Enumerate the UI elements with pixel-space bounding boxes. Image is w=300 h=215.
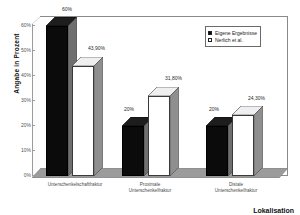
x-category-label-2: Proximale Unterschenkelfraktur [110,182,190,194]
y-tick-label: 40% [21,73,31,78]
bar-series1-cat3 [206,126,228,176]
bar-series1-cat1 [46,26,68,176]
y-tick-label: 30% [21,98,31,103]
bar-value-label-s2c3: 24,30% [248,95,265,101]
bar-side-face [94,57,103,176]
bar-series2-cat2 [148,96,170,176]
bar-front-face [46,26,68,176]
y-tick-label: 20% [21,123,31,128]
bar-front-face [122,126,144,176]
bar-front-face [232,115,254,176]
y-tick-mark [32,25,35,26]
chart-container: Angabe in Prozent 60% 50% 40% 30% 20% 10… [0,0,300,215]
bar-front-face [72,66,94,176]
legend-swatch-dark-icon [208,31,212,35]
y-tick-mark [32,50,35,51]
y-tick-20: 20% [0,123,31,128]
bar-side-face [170,87,179,176]
y-tick-mark [32,175,35,176]
bar-value-label-s2c1: 43,90% [88,45,105,51]
legend-item-eigene-ergebnisse: Eigene Ergebnisse [208,30,257,36]
y-tick-60: 60% [0,23,31,28]
x-category-label-3: Distale Unterschenkelfraktur [196,182,276,194]
y-tick-label: 50% [21,48,31,53]
y-tick-mark [32,75,35,76]
legend-swatch-light-icon [208,38,212,42]
bar-value-label-s1c1: 60% [62,6,72,12]
y-tick-0: 0% [0,173,31,178]
x-axis-title: Lokalisation [253,207,294,214]
y-tick-mark [32,100,35,101]
bar-series2-cat3 [232,115,254,176]
y-tick-mark [32,150,35,151]
legend-label: Eigene Ergebnisse [215,30,257,36]
legend-label: Nerlich et al. [215,37,243,43]
y-tick-label: 10% [21,148,31,153]
bar-series1-cat2 [122,126,144,176]
y-tick-mark [32,125,35,126]
bar-value-label-s2c2: 31,80% [165,75,182,81]
bar-side-face [254,106,263,176]
y-tick-10: 10% [0,148,31,153]
y-axis-title: Angabe in Prozent [13,24,20,104]
legend-item-nerlich-et-al: Nerlich et al. [208,37,257,43]
y-tick-30: 30% [0,98,31,103]
bar-front-face [206,126,228,176]
chart-legend: Eigene Ergebnisse Nerlich et al. [205,26,261,47]
y-tick-40: 40% [0,73,31,78]
y-tick-50: 50% [0,48,31,53]
bar-front-face [148,96,170,176]
y-tick-label: 0% [24,173,31,178]
bar-series2-cat1 [72,66,94,176]
bar-value-label-s1c2: 20% [124,106,134,112]
bar-value-label-s1c3: 20% [209,106,219,112]
y-tick-label: 60% [21,23,31,28]
